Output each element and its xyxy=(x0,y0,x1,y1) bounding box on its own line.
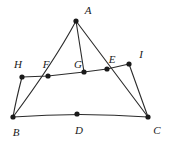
segment-b-c xyxy=(13,115,148,118)
vertex-label-g: G xyxy=(74,59,82,70)
vertex-label-d: D xyxy=(75,125,83,136)
vertex-point-h xyxy=(19,74,24,79)
vertex-label-e: E xyxy=(109,54,116,65)
segment-i-c xyxy=(129,64,148,117)
vertex-point-b xyxy=(10,114,15,119)
vertex-point-d xyxy=(74,111,79,116)
vertex-point-f xyxy=(45,73,50,78)
vertex-label-c: C xyxy=(153,125,160,136)
vertex-label-f: F xyxy=(43,59,50,70)
vertex-label-h: H xyxy=(14,59,22,70)
segment-a-c xyxy=(76,21,148,117)
vertex-label-i: I xyxy=(139,49,143,60)
geometry-canvas xyxy=(0,0,172,142)
vertex-point-a xyxy=(73,18,78,23)
vertex-point-i xyxy=(126,61,131,66)
geometry-figure: AHFGEIBDC xyxy=(0,0,172,142)
vertex-point-c xyxy=(145,114,150,119)
vertex-point-g xyxy=(81,69,86,74)
vertex-label-a: A xyxy=(85,5,92,16)
vertex-point-e xyxy=(104,66,109,71)
vertex-label-b: B xyxy=(13,127,20,138)
